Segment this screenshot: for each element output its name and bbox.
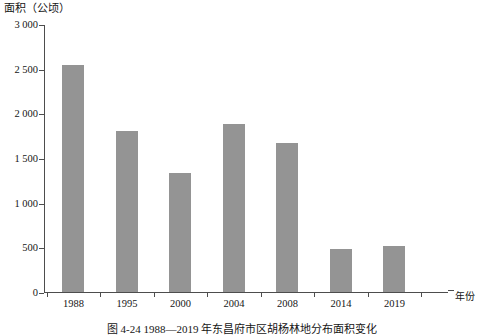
bar-2019 [383, 246, 405, 292]
figure-caption: 图 4-24 1988—2019 年东昌府市区胡杨林地分布面积变化 [0, 322, 484, 336]
y-axis-title: 面积（公顷） [4, 1, 70, 15]
x-axis-tick-label: 2004 [223, 298, 244, 309]
y-axis-tick [39, 70, 44, 71]
y-axis-labels: 05001 0001 5002 0002 5003 000 [0, 25, 38, 293]
x-axis-tick [314, 293, 315, 297]
x-axis-line [44, 292, 448, 293]
x-axis-tick-label: 2000 [170, 298, 191, 309]
bar-2004 [223, 124, 245, 292]
y-axis-tick-label: 0 [33, 288, 38, 299]
y-axis-tick-label: 2 500 [14, 65, 38, 76]
x-axis-tick-label: 2008 [277, 298, 298, 309]
x-axis-tick [47, 293, 48, 297]
x-axis-tick [207, 293, 208, 297]
bar-1995 [116, 131, 138, 292]
bar-2008 [276, 143, 298, 292]
x-axis-tick [100, 293, 101, 297]
y-axis-tick [39, 114, 44, 115]
y-axis-tick [39, 293, 44, 294]
bar-2000 [169, 173, 191, 292]
y-axis-tick-label: 1 000 [14, 199, 38, 210]
x-axis-tick-label: 1988 [63, 298, 84, 309]
bar-2014 [330, 249, 352, 292]
x-axis-arrow-icon [448, 290, 454, 291]
x-axis-title: 年份 [455, 291, 475, 302]
bar-1988 [62, 65, 84, 292]
x-axis-tick-label: 1995 [116, 298, 137, 309]
y-axis-tick-label: 1 500 [14, 154, 38, 165]
y-axis-tick [39, 25, 44, 26]
y-axis-tick [39, 159, 44, 160]
chart-figure: 面积（公顷） 05001 0001 5002 0002 5003 000 年份 … [0, 0, 484, 336]
y-axis-tick [39, 204, 44, 205]
x-axis-tick-label: 2014 [330, 298, 351, 309]
y-axis-line [44, 25, 45, 293]
x-axis-tick [154, 293, 155, 297]
y-axis-tick [39, 248, 44, 249]
x-axis-tick [421, 293, 422, 297]
y-axis-tick-label: 3 000 [14, 20, 38, 31]
y-axis-tick-label: 500 [22, 243, 38, 254]
x-axis-tick [368, 293, 369, 297]
x-axis-tick-label: 2019 [384, 298, 405, 309]
y-axis-tick-label: 2 000 [14, 109, 38, 120]
x-axis-tick [261, 293, 262, 297]
plot-area [44, 25, 448, 293]
